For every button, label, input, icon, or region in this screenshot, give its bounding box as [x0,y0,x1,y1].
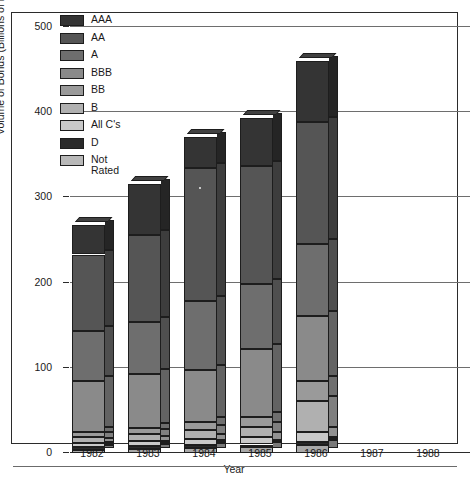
bar-segment-1983-bbb [128,374,161,429]
bar-segment-1982-bb [72,432,105,437]
legend-swatch-icon [60,85,84,96]
x-tick-label-1982: 1982 [62,447,122,459]
bar-segment-1982-aa [72,255,105,332]
bar-segment-1982-aaa [72,225,105,255]
legend-swatch-icon [60,138,84,149]
y-tick-label-100: 100 [14,361,52,373]
bar-segment-side [105,326,114,375]
legend-label: BB [91,84,105,95]
bar-segment-side [161,230,170,317]
y-tick-label-0: 0 [14,446,52,458]
bar-segment-1983-b [128,434,161,441]
bar-segment-1985-all-c-s [240,437,273,445]
legend-item-all-c-s: All C's [60,119,152,137]
bar-segment-side [161,179,170,230]
legend-label: Not Rated [91,154,119,176]
legend-swatch-icon [60,155,84,166]
bar-segment-1985-aaa [240,118,273,166]
legend-label: D [91,137,99,148]
bar-1983 [128,184,161,453]
legend-swatch-icon [60,103,84,114]
bar-segment-1984-aaa [184,137,217,168]
bar-segment-1982-bbb [72,381,105,432]
x-tick-label-1988: 1988 [398,447,458,459]
legend-label: B [91,102,98,113]
bar-segment-1986-a [296,244,329,316]
bar-segment-side [329,117,338,240]
bar-segment-side [105,427,114,432]
bar-segment-side [161,317,170,369]
bar-segment-side [273,113,282,161]
legend-item-a: A [60,49,152,67]
bar-segment-side [217,425,226,434]
bar-segment-side [217,440,226,443]
bar-segment-1983-a [128,322,161,374]
legend-label: A [91,49,98,60]
bar-segment-side [329,396,338,427]
bar-segment-side [329,311,338,377]
bar-segment-side [217,417,226,425]
bar-segment-1984-a [184,301,217,370]
bar-1982 [72,225,105,453]
scan-speck [199,187,201,189]
bar-segment-side [217,132,226,163]
bar-segment-side [329,56,338,116]
bar-segment-side [217,163,226,296]
x-axis-title: Year [0,463,468,475]
bar-segment-side [329,437,338,440]
bar-segment-side [217,296,226,365]
bar-segment-1985-bbb [240,349,273,417]
bar-segment-side [105,376,114,427]
bar-segment-side [105,438,114,442]
bar-1986 [296,61,329,453]
bar-segment-1982-a [72,331,105,380]
x-tick-label-1985: 1985 [230,447,290,459]
y-tick-label-300: 300 [14,190,52,202]
x-tick-label-1987: 1987 [342,447,402,459]
bar-segment-1986-all-c-s [296,432,329,442]
bar-segment-side [105,220,114,250]
footer-rule [13,466,457,467]
bar-segment-1985-bb [240,417,273,426]
bar-segment-side [161,429,170,436]
bar-segment-side [273,422,282,432]
bar-segment-1984-bb [184,422,217,430]
bar-segment-1984-bbb [184,370,217,423]
y-tick-mark-100 [63,367,69,368]
y-tick-label-200: 200 [14,276,52,288]
bar-1984 [184,137,217,453]
bar-segment-1983-all-c-s [128,441,161,446]
legend-item-not-rated: Not Rated [60,154,152,180]
legend-label: BBB [91,67,112,78]
bar-segment-1985-aa [240,166,273,284]
bar-segment-side [329,427,338,437]
legend-label: AAA [91,14,112,25]
bar-segment-1986-bb [296,381,329,401]
legend-item-b: B [60,102,152,120]
legend-swatch-icon [60,33,84,44]
bar-segment-side [273,432,282,440]
bar-segment-1985-b [240,427,273,437]
bar-segment-side [329,239,338,311]
legend-swatch-icon [60,50,84,61]
bar-segment-1983-aaa [128,184,161,235]
legend-item-bbb: BBB [60,67,152,85]
legend-item-aaa: AAA [60,14,152,32]
bar-segment-side [217,365,226,418]
bar-segment-1985-a [240,284,273,349]
bar-segment-side [161,441,170,444]
bar-segment-side [273,279,282,344]
legend-swatch-icon [60,68,84,79]
bar-segment-1986-bbb [296,316,329,382]
legend-label: All C's [91,119,120,130]
bar-top-face-1984 [186,129,224,134]
bar-1985 [240,118,273,453]
bar-top-face-1986 [298,53,336,58]
bar-segment-side [217,434,226,441]
y-tick-mark-200 [63,282,69,283]
bar-segment-1983-bb [128,428,161,434]
bar-segment-side [273,412,282,421]
y-tick-label-400: 400 [14,105,52,117]
bar-segment-1986-aaa [296,61,329,121]
